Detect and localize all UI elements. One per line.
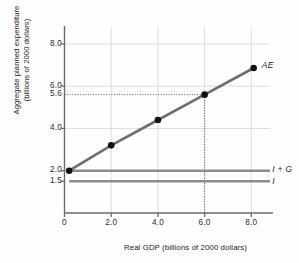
chart-figure: Aggregate planned expenditure (billions … (0, 0, 299, 263)
data-point-marker (155, 117, 162, 124)
plot-canvas (0, 0, 299, 263)
data-point-marker (108, 142, 115, 149)
data-point-marker (250, 65, 257, 72)
data-point-marker (201, 91, 208, 98)
series-line-ae (69, 68, 253, 171)
data-point-marker (66, 167, 73, 174)
